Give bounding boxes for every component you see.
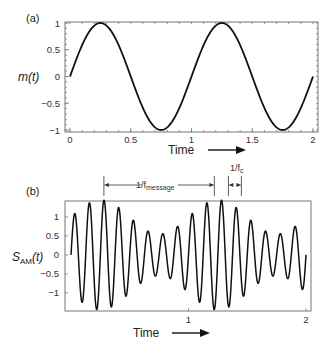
panel-a-y-tick-label: −0.5 xyxy=(41,98,60,109)
panel-b-y-ticks: 10.50−0.5−1 xyxy=(40,211,68,298)
panel-a-y-ticks: 10.50−0.5−1 xyxy=(41,18,318,136)
panel-a-y-tick-label: 1 xyxy=(55,18,60,29)
annotation-message-period-right-arrow-icon xyxy=(209,183,214,187)
panel-a-y-tick-label: −1 xyxy=(49,125,60,136)
panel-a-series-m-t xyxy=(70,23,313,130)
panel-b-ylabel-main: S xyxy=(12,250,20,264)
panel-a-xlabel-arrow-icon xyxy=(208,146,246,154)
panel-b-y-tick-label: −0.5 xyxy=(40,268,59,279)
panel-a-xlabel: Time xyxy=(168,143,195,157)
panel-b-x-tick-label: 1 xyxy=(186,314,191,325)
panel-b-ylabel-suffix: (t) xyxy=(32,250,43,264)
panel-b-y-tick-label: 1 xyxy=(54,211,59,222)
annotation-message-period-left-arrow-icon xyxy=(104,183,109,187)
panel-b-annotations: 1/fmessage 1/fc xyxy=(104,163,244,196)
panel-b-y-tick-label: 0.5 xyxy=(46,230,59,241)
annotation-message-period-label: 1/fmessage xyxy=(136,180,175,192)
annotation-carrier-period-label: 1/fc xyxy=(230,163,244,174)
panel-a-x-tick-label: 2 xyxy=(310,134,315,145)
panel-b-ylabel: SAM(t) xyxy=(12,250,43,266)
panel-b-ylabel-sub: AM xyxy=(20,257,32,266)
panel-b-xlabel-arrow-icon xyxy=(172,329,210,337)
panel-a-x-ticks: 00.511.52 xyxy=(67,22,315,145)
panel-a-ylabel: m(t) xyxy=(18,70,39,84)
panel-b-xlabel: Time xyxy=(133,326,160,340)
panel-a-x-tick-label: 0.5 xyxy=(124,134,137,145)
panel-b-y-tick-label: −1 xyxy=(48,287,59,298)
annotation-carrier-period-left-arrow-icon xyxy=(228,183,233,187)
annotation-message-sub: message xyxy=(146,184,175,192)
panel-a-y-tick-label: 0.5 xyxy=(47,44,60,55)
panel-b: (b) SAM(t) 1/fmessage 1/fc 10.50−0.5−1 1… xyxy=(12,163,311,340)
panel-b-tag: (b) xyxy=(26,185,39,197)
annotation-carrier-sub: c xyxy=(240,167,244,174)
annotation-carrier-period-right-arrow-icon xyxy=(236,183,241,187)
panel-a-x-tick-label: 1.5 xyxy=(246,134,259,145)
panel-a-x-tick-label: 0 xyxy=(67,134,72,145)
panel-b-y-tick-label: 0 xyxy=(54,249,59,260)
panel-a: (a) m(t) 10.50−0.5−1 00.511.52 Time xyxy=(18,12,318,157)
panel-a-tag: (a) xyxy=(26,12,39,24)
annotation-carrier-main: 1/f xyxy=(230,163,241,173)
panel-b-x-tick-label: 2 xyxy=(303,314,308,325)
panel-b-series-s-am-t xyxy=(71,200,306,309)
figure: (a) m(t) 10.50−0.5−1 00.511.52 Time (b) … xyxy=(0,0,334,352)
panel-a-y-tick-label: 0 xyxy=(55,71,60,82)
